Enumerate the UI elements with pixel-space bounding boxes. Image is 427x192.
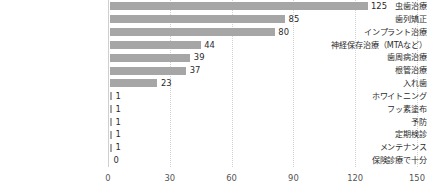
bar-track: 1: [110, 128, 427, 141]
bar-row: 神経保存治療（MTAなど）44: [0, 39, 427, 52]
bar: [110, 144, 112, 152]
bar: [110, 41, 201, 49]
horizontal-bar-chart: 虫歯治療125歯列矯正85インプラント治療80神経保存治療（MTAなど）44歯周…: [0, 0, 427, 192]
x-tick-label: 90: [288, 173, 299, 183]
bar-value-label: 0: [114, 154, 119, 167]
bar: [110, 15, 285, 23]
bar-value-label: 23: [161, 77, 172, 90]
bar-row: メンテナンス1: [0, 141, 427, 154]
bar: [110, 105, 112, 113]
bar-track: 44: [110, 39, 427, 52]
x-tick-label: 0: [105, 173, 110, 183]
bar-track: 1: [110, 103, 427, 116]
bar-value-label: 1: [116, 103, 121, 116]
bar-track: 1: [110, 141, 427, 154]
bar-row: 保険診療で十分0: [0, 154, 427, 167]
bar-value-label: 1: [116, 116, 121, 129]
x-tick-label: 60: [226, 173, 237, 183]
bar-row: インプラント治療80: [0, 26, 427, 39]
x-tick-label: 30: [164, 173, 175, 183]
x-tick-label: 120: [347, 173, 363, 183]
bar-value-label: 44: [204, 39, 215, 52]
bar-track: 0: [110, 154, 427, 167]
bar: [110, 92, 112, 100]
bar-value-label: 80: [278, 26, 289, 39]
bar-value-label: 1: [116, 128, 121, 141]
bar-track: 1: [110, 116, 427, 129]
bar: [110, 2, 368, 10]
bar-value-label: 85: [289, 13, 300, 26]
bar-rows: 虫歯治療125歯列矯正85インプラント治療80神経保存治療（MTAなど）44歯周…: [0, 0, 427, 167]
bar: [110, 131, 112, 139]
bar-track: 37: [110, 64, 427, 77]
bar-row: 歯列矯正85: [0, 13, 427, 26]
bar-track: 1: [110, 90, 427, 103]
bar-row: 虫歯治療125: [0, 0, 427, 13]
bar-row: 根管治療37: [0, 64, 427, 77]
bar-value-label: 1: [116, 141, 121, 154]
bar-track: 23: [110, 77, 427, 90]
bar-value-label: 39: [194, 51, 205, 64]
x-tick-label: 150: [409, 173, 425, 183]
bar-row: 定期検診1: [0, 128, 427, 141]
bar-row: 入れ歯23: [0, 77, 427, 90]
bar: [110, 28, 275, 36]
x-axis: 0306090120150: [0, 167, 427, 192]
bar: [110, 54, 190, 62]
bar-track: 85: [110, 13, 427, 26]
bar-value-label: 125: [371, 0, 387, 13]
bar-row: 歯周病治療39: [0, 51, 427, 64]
bar: [110, 67, 186, 75]
bar-row: ホワイトニング1: [0, 90, 427, 103]
bar-track: 125: [110, 0, 427, 13]
bar-row: 予防1: [0, 116, 427, 129]
bar: [110, 118, 112, 126]
bar-value-label: 1: [116, 90, 121, 103]
bar-track: 80: [110, 26, 427, 39]
bar-row: フッ素塗布1: [0, 103, 427, 116]
bar: [110, 79, 157, 87]
bar-value-label: 37: [190, 64, 201, 77]
bar-track: 39: [110, 51, 427, 64]
